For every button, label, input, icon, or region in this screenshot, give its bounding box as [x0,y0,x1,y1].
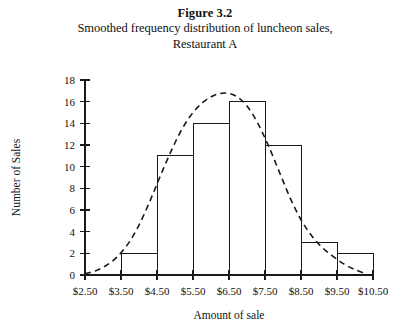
y-tick-label: 10 [64,161,76,173]
smoothed-frequency-curve [85,93,366,274]
x-tick-label: $10.50 [358,285,389,297]
y-tick-label: 4 [70,226,76,238]
x-tick-label: $4.50 [145,285,170,297]
histogram-bar [337,253,373,275]
y-tick-label: 8 [70,182,76,194]
x-axis-ticks: $2.50$3.50$4.50$5.50$6.50$7.50$8.50$9.50… [73,270,389,297]
y-tick-label: 16 [64,96,76,108]
figure-title-block: Figure 3.2 Smoothed frequency distributi… [0,6,410,52]
figure-number: Figure 3.2 [0,6,410,21]
y-tick-label: 12 [64,139,75,151]
histogram-bars [121,102,373,275]
figure-container: Figure 3.2 Smoothed frequency distributi… [0,0,410,330]
y-tick-label: 2 [70,247,76,259]
x-tick-label: $5.50 [181,285,206,297]
x-tick-label: $2.50 [73,285,98,297]
histogram-bar [301,243,337,276]
x-tick-label: $8.50 [289,285,314,297]
y-tick-label: 0 [70,269,76,281]
histogram-chart: 024681012141618 $2.50$3.50$4.50$5.50$6.5… [0,58,410,330]
histogram-bar [121,253,157,275]
plot-area: 024681012141618 $2.50$3.50$4.50$5.50$6.5… [0,58,410,330]
y-axis-ticks: 024681012141618 [64,74,90,281]
x-tick-label: $7.50 [253,285,278,297]
y-tick-label: 6 [70,204,76,216]
y-axis-title: Number of Sales [10,138,22,216]
y-tick-label: 14 [64,117,76,129]
figure-caption-line-1: Smoothed frequency distribution of lunch… [0,21,410,37]
x-tick-label: $3.50 [109,285,134,297]
x-tick-label: $9.50 [325,285,350,297]
x-tick-label: $6.50 [217,285,242,297]
figure-caption-line-2: Restaurant A [0,37,410,53]
histogram-bar [193,123,229,275]
histogram-bar [157,156,193,275]
x-axis-title: Amount of sale [194,309,265,321]
y-tick-label: 18 [64,74,76,86]
